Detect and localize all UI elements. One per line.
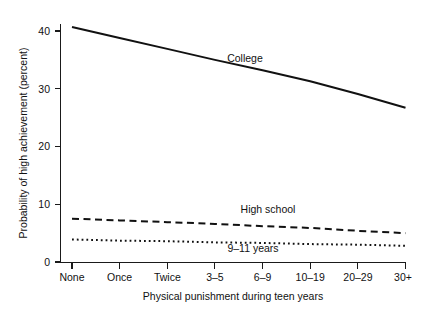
series-label-high-school: High school <box>241 203 296 215</box>
x-axis-title: Physical punishment during teen years <box>143 290 323 302</box>
x-tick-label-6-9: 6–9 <box>254 271 272 283</box>
x-tick-label-3-5: 3–5 <box>206 271 224 283</box>
y-tick-label-20: 20 <box>38 140 50 152</box>
y-tick-label-0: 0 <box>44 256 50 268</box>
y-tick-label-10: 10 <box>38 198 50 210</box>
line-chart-canvas: 40 30 20 10 0 None Once Twice 3–5 6–9 10… <box>0 0 423 317</box>
y-tick-label-30: 30 <box>38 83 50 95</box>
x-tick-label-20-29: 20–29 <box>343 271 372 283</box>
series-label-9-11-years: 9–11 years <box>227 242 278 254</box>
y-axis-title: Probability of high achievement (percent… <box>17 48 29 239</box>
series-line-college <box>72 27 406 108</box>
series-label-college: College <box>227 52 263 64</box>
y-tick-label-40: 40 <box>38 25 50 37</box>
series-line-high-school <box>72 219 406 233</box>
x-tick-label-once: Once <box>107 271 132 283</box>
x-tick-label-none: None <box>59 271 84 283</box>
x-tick-label-30plus: 30+ <box>394 271 412 283</box>
x-tick-label-twice: Twice <box>154 271 181 283</box>
chart-figure: 40 30 20 10 0 None Once Twice 3–5 6–9 10… <box>0 0 423 317</box>
x-tick-label-10-19: 10–19 <box>296 271 325 283</box>
